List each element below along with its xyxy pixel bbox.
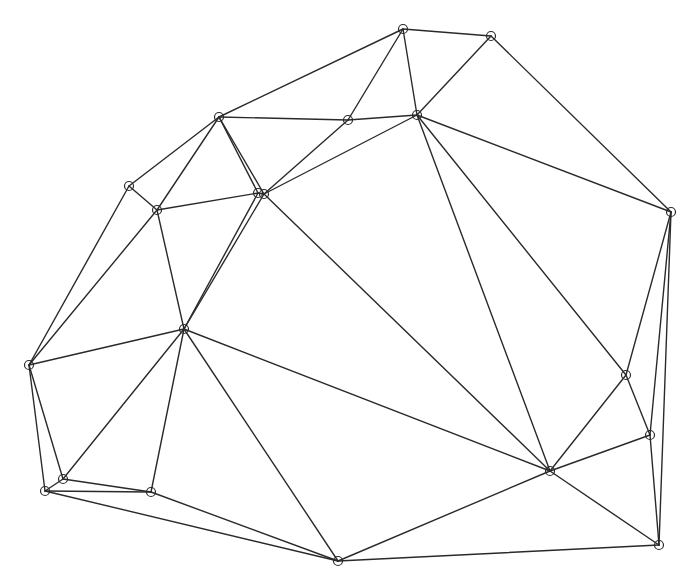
graph-edge-H-L <box>29 186 129 365</box>
graph-nodes <box>25 25 676 566</box>
graph-edge-C-D <box>219 117 348 120</box>
graph-edge-B-J <box>491 36 671 212</box>
graph-edge-O-T <box>550 471 659 545</box>
graph-edge-A-E <box>403 29 417 115</box>
graph-edge-J-N <box>650 212 671 435</box>
graph-edge-F-K <box>184 193 258 329</box>
graph-edge-P-R <box>63 479 151 492</box>
graph-edge-L-P <box>29 365 63 479</box>
graph-edge-C-H <box>129 117 219 186</box>
graph-edge-K-S <box>184 329 338 561</box>
graph-edge-J-M <box>626 212 671 375</box>
graph-edge-K-O <box>184 329 550 471</box>
graph-edge-C-I <box>157 117 219 210</box>
graph-edge-N-T <box>650 435 659 545</box>
graph-edge-O-S <box>338 471 550 561</box>
graph-diagram <box>0 0 697 587</box>
graph-edge-F-I <box>157 193 258 210</box>
graph-edge-P-Q <box>45 479 63 491</box>
graph-edge-R-S <box>151 492 338 561</box>
graph-edge-K-P <box>63 329 184 479</box>
graph-edge-Q-R <box>45 491 151 492</box>
graph-edge-H-I <box>129 186 157 210</box>
graph-edge-K-R <box>151 329 184 492</box>
graph-edge-D-E <box>348 115 417 120</box>
graph-edge-A-B <box>403 29 491 36</box>
graph-edge-G-O <box>264 194 550 471</box>
graph-edge-Q-S <box>45 491 338 561</box>
graph-edge-C-G <box>219 117 264 194</box>
graph-edge-B-E <box>417 36 491 115</box>
graph-edge-I-K <box>157 210 184 329</box>
graph-edge-A-C <box>219 29 403 117</box>
graph-edge-G-K <box>184 194 264 329</box>
graph-edge-C-F <box>219 117 258 193</box>
graph-edge-F-G <box>258 193 264 194</box>
graph-edge-L-Q <box>29 365 45 491</box>
graph-edge-K-L <box>29 329 184 365</box>
graph-edge-J-T <box>659 212 671 545</box>
graph-edges <box>29 29 671 561</box>
graph-edge-S-T <box>338 545 659 561</box>
graph-edge-E-O <box>417 115 550 471</box>
graph-edge-I-L <box>29 210 157 365</box>
graph-edge-M-N <box>626 375 650 435</box>
graph-edge-E-M <box>417 115 626 375</box>
